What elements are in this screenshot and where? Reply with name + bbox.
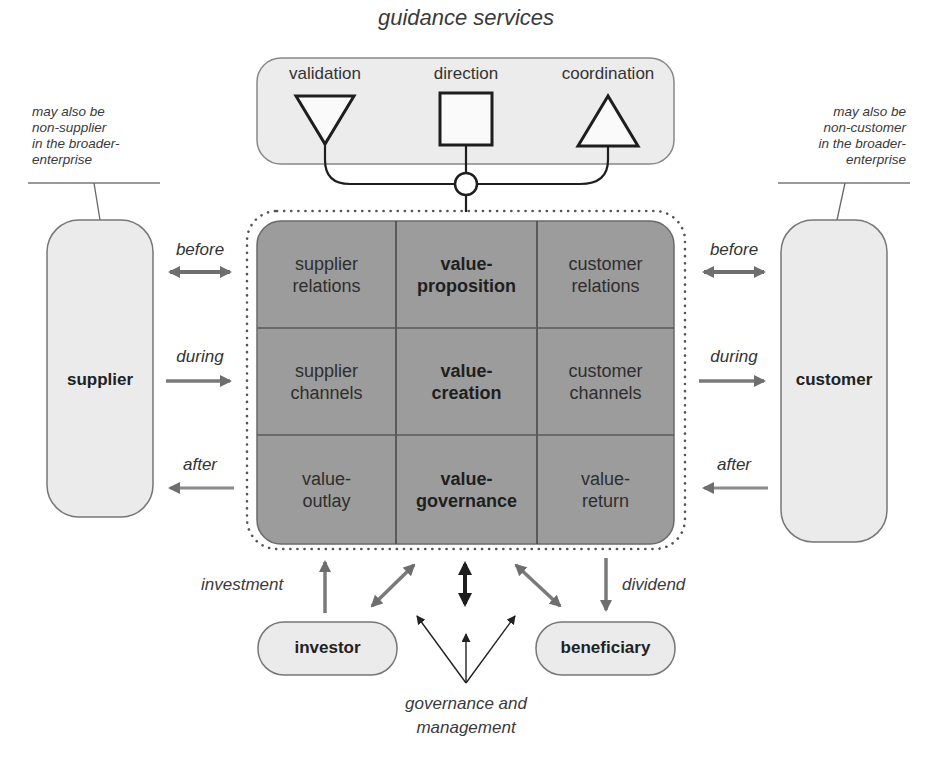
customer-before-label: before [694, 240, 774, 260]
investment-label: investment [201, 575, 283, 595]
investor-label: investor [258, 638, 397, 658]
customer-note: may also be non-customer in the broader-… [770, 104, 906, 168]
investor-governance-arrow [372, 565, 414, 606]
supplier-during-label: during [160, 347, 240, 367]
supplier-before-label: before [160, 240, 240, 260]
validation-label: validation [255, 64, 395, 84]
customer-after-label: after [694, 455, 774, 475]
guidance-junction-circle [455, 173, 477, 195]
supplier-pill [47, 220, 153, 517]
dividend-label: dividend [622, 575, 685, 595]
cell-supplier-channels: supplierchannels [257, 328, 396, 435]
beneficiary-governance-arrow [516, 565, 560, 606]
cell-value-proposition: value-proposition [396, 221, 537, 328]
governance-management-label: governance and management [366, 692, 566, 740]
cell-customer-channels: customerchannels [537, 328, 674, 435]
direction-label: direction [396, 64, 536, 84]
coordination-label: coordination [538, 64, 678, 84]
beneficiary-label: beneficiary [536, 638, 675, 658]
customer-during-label: during [694, 347, 774, 367]
supplier-note: may also be non-supplier in the broader-… [32, 104, 120, 168]
guidance-services-title: guidance services [316, 5, 616, 31]
direction-square-icon [440, 93, 492, 145]
cell-value-creation: value-creation [396, 328, 537, 435]
cell-value-return: value-return [537, 435, 674, 544]
customer-label: customer [781, 370, 887, 390]
supplier-after-label: after [160, 455, 240, 475]
cell-supplier-relations: supplierrelations [257, 221, 396, 328]
cell-value-outlay: value-outlay [257, 435, 396, 544]
cell-customer-relations: customerrelations [537, 221, 674, 328]
supplier-label: supplier [47, 370, 153, 390]
cell-value-governance: value-governance [396, 435, 537, 544]
